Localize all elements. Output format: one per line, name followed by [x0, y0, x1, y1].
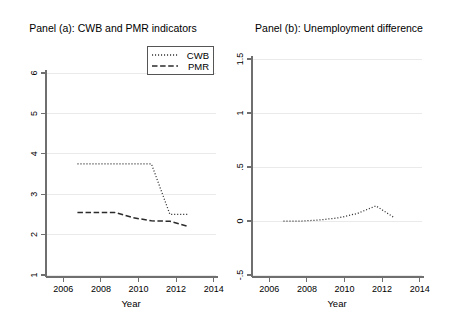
panel-a-ytick-6: 6 [29, 70, 39, 75]
panel-a-xtick-2010: 2010 [128, 284, 148, 294]
panel-a-ytick-1: 1 [29, 272, 39, 277]
panel-b-ytick-0p5: .5 [235, 163, 245, 171]
panel-a-series-group [77, 164, 188, 227]
series-line-unemployment-difference [283, 206, 394, 221]
panel-b-y-axis [247, 56, 252, 277]
panel-b-x-axis [252, 277, 424, 282]
legend-label-cwb: CWB [187, 50, 209, 61]
panel-b-ytick-neg0p5: -.5 [235, 270, 245, 281]
panel-a-xtick-2008: 2008 [91, 284, 111, 294]
panel-b: Panel (b): Unemployment difference 1.5 [226, 0, 452, 323]
panel-b-xtick-2012: 2012 [372, 284, 392, 294]
panel-a-y-tick-labels: 6 5 4 3 2 1 [29, 70, 39, 277]
panel-a-xtick-2006: 2006 [53, 284, 73, 294]
panel-a-xaxis-title: Year [121, 298, 140, 309]
panel-b-ytick-0: 0 [235, 218, 245, 223]
panel-a-legend[interactable]: CWB PMR [147, 46, 213, 74]
panel-b-ytick-1: 1 [235, 110, 245, 115]
panel-a: Panel (a): CWB and PMR indicators [0, 0, 226, 323]
series-line-cwb [77, 164, 188, 215]
panel-b-y-tick-labels: 1.5 1 .5 0 -.5 [235, 53, 245, 281]
panel-a-ytick-4: 4 [29, 151, 39, 156]
panel-b-xtick-2010: 2010 [334, 284, 354, 294]
panel-a-y-axis [41, 70, 46, 277]
panel-a-ytick-5: 5 [29, 111, 39, 116]
panel-a-ytick-2: 2 [29, 232, 39, 237]
panel-a-xtick-2014: 2014 [204, 284, 224, 294]
figure-canvas: Panel (a): CWB and PMR indicators [0, 0, 452, 323]
panel-b-plot: 1.5 1 .5 0 -.5 2006 2008 2010 2012 20 [226, 0, 452, 323]
panel-b-x-tick-labels: 2006 2008 2010 2012 2014 [259, 284, 429, 294]
panel-a-plot: 6 5 4 3 2 1 2006 2008 2010 2012 [0, 0, 226, 323]
legend-label-pmr: PMR [188, 61, 209, 72]
panel-b-gridlines [252, 59, 422, 275]
panel-b-xaxis-title: Year [327, 298, 346, 309]
panel-a-gridlines [46, 73, 216, 275]
panel-b-series-group [283, 206, 394, 221]
panel-a-x-axis [46, 277, 218, 282]
panel-a-ytick-3: 3 [29, 192, 39, 197]
panel-a-x-tick-labels: 2006 2008 2010 2012 2014 [53, 284, 223, 294]
panel-b-xtick-2008: 2008 [297, 284, 317, 294]
panel-b-xtick-2006: 2006 [259, 284, 279, 294]
panel-a-xtick-2012: 2012 [166, 284, 186, 294]
panel-b-ytick-1p5: 1.5 [235, 53, 245, 66]
panel-b-xtick-2014: 2014 [410, 284, 430, 294]
